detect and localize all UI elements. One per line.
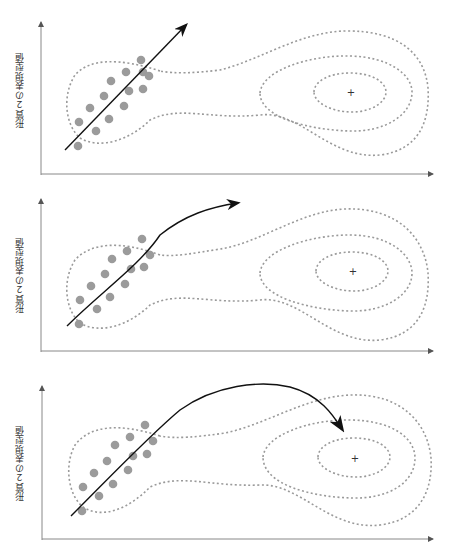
landscape-plot: + <box>0 185 449 365</box>
fitness-contours <box>67 31 428 155</box>
fitness-landscape-panel-2: 形質２の表現型値 + <box>0 185 449 365</box>
fitness-contours <box>67 209 428 340</box>
fitness-landscape-panel-1: 形質２の表現型値 + <box>0 0 449 185</box>
population-dots <box>78 421 158 516</box>
peak-marker: + <box>351 453 359 464</box>
fitness-contours <box>69 395 431 526</box>
peak-marker: + <box>349 266 357 277</box>
fitness-landscape-panel-3: 形質２の表現型値 + <box>0 365 449 554</box>
landscape-plot: + <box>0 365 449 554</box>
peak-marker: + <box>347 87 355 98</box>
axes <box>41 199 433 352</box>
selection-response-arrow <box>71 384 342 516</box>
population-dots <box>74 56 154 151</box>
axes <box>41 22 433 175</box>
selection-response-arrow <box>67 203 238 326</box>
selection-response-arrow <box>65 25 186 150</box>
landscape-plot: + <box>0 0 449 185</box>
axes <box>42 386 433 540</box>
